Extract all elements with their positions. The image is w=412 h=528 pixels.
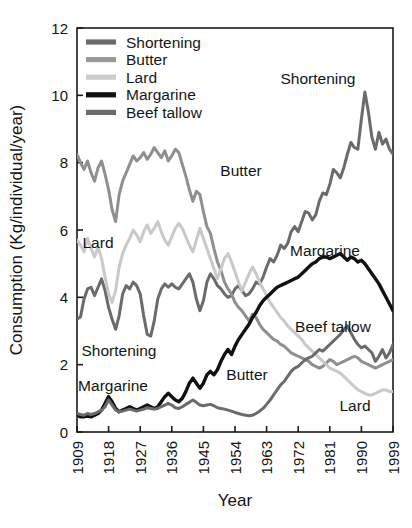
x-tick-label: 1981 xyxy=(321,441,338,474)
x-tick-label: 1954 xyxy=(227,441,244,474)
legend-label-butter: Butter xyxy=(126,51,167,68)
x-tick-label: 1999 xyxy=(385,441,402,474)
y-tick-label: 6 xyxy=(60,222,68,239)
y-tick-label: 2 xyxy=(60,356,68,373)
x-tick-label: 1909 xyxy=(69,441,86,474)
y-tick-label: 10 xyxy=(51,87,68,104)
x-tick-label: 1990 xyxy=(353,441,370,474)
chart-figure: 0246810121909191819271936194519541963197… xyxy=(0,0,412,528)
x-tick-label: 1945 xyxy=(195,441,212,474)
annotation-shortening-5: Shortening xyxy=(82,342,157,359)
consumption-line-chart: 0246810121909191819271936194519541963197… xyxy=(0,0,412,528)
annotation-margarine-7: Margarine xyxy=(78,377,148,394)
x-tick-label: 1963 xyxy=(258,441,275,474)
y-tick-label: 4 xyxy=(60,289,68,306)
x-tick-label: 1936 xyxy=(163,441,180,474)
legend-label-margarine: Margarine xyxy=(126,86,196,103)
annotation-shortening-0: Shortening xyxy=(281,70,356,87)
x-tick-label: 1972 xyxy=(290,441,307,474)
annotation-margarine-3: Margarine xyxy=(290,242,360,259)
annotation-butter-6: Butter xyxy=(226,366,267,383)
x-tick-label: 1927 xyxy=(132,441,149,474)
y-tick-label: 0 xyxy=(60,424,68,441)
annotation-lard-8: Lard xyxy=(339,397,370,414)
x-tick-label: 1918 xyxy=(100,441,117,474)
legend-label-lard: Lard xyxy=(126,69,157,86)
legend-label-shortening: Shortening xyxy=(126,34,201,51)
annotation-butter-1: Butter xyxy=(220,162,261,179)
annotation-beef-tallow-4: Beef tallow xyxy=(295,318,372,335)
annotation-lard-2: Lard xyxy=(82,234,113,251)
y-tick-label: 12 xyxy=(51,20,68,37)
y-axis-title: Consumption (Kg/individual/year) xyxy=(7,105,26,355)
x-axis-title: Year xyxy=(218,491,253,510)
legend-label-beef-tallow: Beef tallow xyxy=(126,104,203,121)
y-tick-label: 8 xyxy=(60,154,68,171)
